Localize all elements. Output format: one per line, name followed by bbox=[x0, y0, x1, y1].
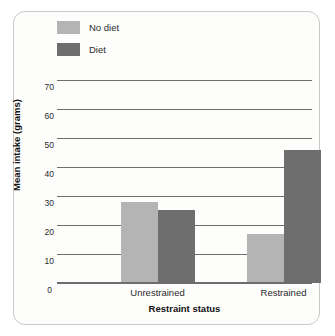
chart-legend: No diet Diet bbox=[57, 19, 177, 63]
bar-restrained-no-diet bbox=[247, 234, 284, 283]
legend-swatch-no-diet bbox=[57, 21, 80, 34]
y-axis-tick-70: 70 bbox=[45, 82, 54, 92]
bar-unrestrained-no-diet bbox=[121, 202, 158, 283]
x-axis-baseline bbox=[57, 282, 312, 283]
bar-unrestrained-diet bbox=[158, 210, 195, 283]
gridline-30 bbox=[57, 196, 312, 197]
gridline-0 bbox=[57, 283, 312, 284]
legend-item-no-diet: No diet bbox=[57, 19, 177, 36]
gridline-40 bbox=[57, 167, 312, 168]
gridline-50 bbox=[57, 138, 312, 139]
legend-item-diet: Diet bbox=[57, 41, 177, 58]
y-axis-tick-60: 60 bbox=[45, 111, 54, 121]
legend-label-diet: Diet bbox=[89, 45, 106, 55]
y-axis-tick-50: 50 bbox=[45, 140, 54, 150]
category-label-unrestrained: Unrestrained bbox=[130, 287, 184, 298]
y-axis-title: Mean intake (grams) bbox=[11, 99, 22, 191]
y-axis-tick-0: 0 bbox=[47, 285, 52, 295]
legend-swatch-diet bbox=[57, 43, 80, 56]
gridline-60 bbox=[57, 109, 312, 110]
y-axis-tick-30: 30 bbox=[45, 198, 54, 208]
gridline-70 bbox=[57, 80, 312, 81]
plot-area: 010203040506070 bbox=[57, 80, 312, 283]
x-axis-title: Restraint status bbox=[57, 303, 312, 314]
chart-figure: No diet Diet 010203040506070 Unrestraine… bbox=[0, 0, 335, 336]
bar-restrained-diet bbox=[284, 150, 321, 283]
y-axis-tick-10: 10 bbox=[45, 256, 54, 266]
legend-label-no-diet: No diet bbox=[89, 23, 119, 33]
y-axis-tick-40: 40 bbox=[45, 169, 54, 179]
y-axis-tick-20: 20 bbox=[45, 227, 54, 237]
category-label-restrained: Restrained bbox=[261, 287, 307, 298]
